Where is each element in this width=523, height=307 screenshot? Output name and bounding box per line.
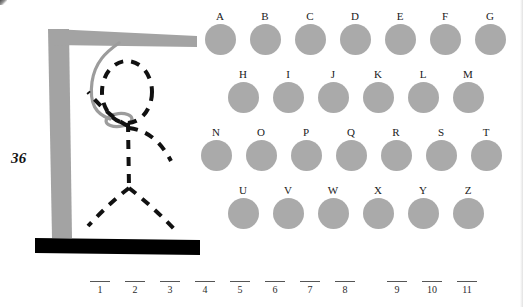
blank-number: 11 bbox=[455, 284, 479, 295]
letter-circle[interactable] bbox=[363, 82, 394, 113]
letter-circle[interactable] bbox=[426, 140, 457, 171]
letter-circle[interactable] bbox=[471, 140, 502, 171]
alphabet-row: U V W X Y Z bbox=[223, 184, 516, 242]
letter-circle[interactable] bbox=[363, 198, 394, 229]
letter-circle[interactable] bbox=[475, 24, 506, 55]
blank-line bbox=[422, 281, 442, 282]
letter-option-t[interactable]: T bbox=[466, 126, 506, 171]
letter-label: W bbox=[313, 184, 353, 197]
letter-option-f[interactable]: F bbox=[425, 10, 465, 55]
blank-line bbox=[265, 281, 285, 282]
letter-label: Z bbox=[448, 184, 488, 197]
letter-label: R bbox=[376, 126, 416, 139]
letter-circle[interactable] bbox=[246, 140, 277, 171]
letter-label: D bbox=[335, 10, 375, 23]
letter-circle[interactable] bbox=[273, 198, 304, 229]
letter-option-v[interactable]: V bbox=[268, 184, 308, 229]
letter-label: S bbox=[421, 126, 461, 139]
letter-circle[interactable] bbox=[408, 198, 439, 229]
letter-label: U bbox=[223, 184, 263, 197]
letter-circle[interactable] bbox=[228, 82, 259, 113]
answer-slot-1[interactable]: 1 bbox=[88, 281, 112, 295]
blank-line bbox=[195, 281, 215, 282]
alphabet-row: A B C D E F G bbox=[200, 10, 516, 68]
letter-circle[interactable] bbox=[273, 82, 304, 113]
blank-number: 2 bbox=[123, 284, 147, 295]
figure-right-leg bbox=[129, 188, 175, 230]
letter-circle[interactable] bbox=[408, 82, 439, 113]
letter-option-c[interactable]: C bbox=[290, 10, 330, 55]
letter-option-q[interactable]: Q bbox=[331, 126, 371, 171]
letter-option-n[interactable]: N bbox=[196, 126, 236, 171]
letter-label: H bbox=[223, 68, 263, 81]
letter-label: G bbox=[470, 10, 510, 23]
answer-slot-2[interactable]: 2 bbox=[123, 281, 147, 295]
letter-label: T bbox=[466, 126, 506, 139]
blank-number: 7 bbox=[298, 284, 322, 295]
blank-line bbox=[125, 281, 145, 282]
letter-option-e[interactable]: E bbox=[380, 10, 420, 55]
letter-option-k[interactable]: K bbox=[358, 68, 398, 113]
letter-circle[interactable] bbox=[340, 24, 371, 55]
gallows-base bbox=[35, 238, 200, 255]
letter-option-x[interactable]: X bbox=[358, 184, 398, 229]
letter-circle[interactable] bbox=[291, 140, 322, 171]
letter-circle[interactable] bbox=[318, 198, 349, 229]
letter-option-i[interactable]: I bbox=[268, 68, 308, 113]
letter-label: F bbox=[425, 10, 465, 23]
answer-slot-9[interactable]: 9 bbox=[385, 281, 409, 295]
letter-option-a[interactable]: A bbox=[200, 10, 240, 55]
letter-circle[interactable] bbox=[381, 140, 412, 171]
letter-option-w[interactable]: W bbox=[313, 184, 353, 229]
alphabet-row: N O P Q R S T bbox=[196, 126, 516, 184]
blank-line bbox=[387, 281, 407, 282]
letter-circle[interactable] bbox=[453, 82, 484, 113]
blank-line bbox=[160, 281, 180, 282]
answer-slot-3[interactable]: 3 bbox=[158, 281, 182, 295]
letter-circle[interactable] bbox=[228, 198, 259, 229]
blank-line bbox=[335, 281, 355, 282]
blank-number: 8 bbox=[333, 284, 357, 295]
letter-label: I bbox=[268, 68, 308, 81]
letter-label: E bbox=[380, 10, 420, 23]
letter-option-z[interactable]: Z bbox=[448, 184, 488, 229]
letter-option-h[interactable]: H bbox=[223, 68, 263, 113]
letter-option-p[interactable]: P bbox=[286, 126, 326, 171]
letter-circle[interactable] bbox=[250, 24, 281, 55]
letter-circle[interactable] bbox=[430, 24, 461, 55]
letter-option-u[interactable]: U bbox=[223, 184, 263, 229]
blank-number: 1 bbox=[88, 284, 112, 295]
gallows-post bbox=[48, 29, 72, 238]
answer-slot-5[interactable]: 5 bbox=[228, 281, 252, 295]
letter-circle[interactable] bbox=[336, 140, 367, 171]
letter-circle[interactable] bbox=[205, 24, 236, 55]
letter-option-d[interactable]: D bbox=[335, 10, 375, 55]
letter-option-g[interactable]: G bbox=[470, 10, 510, 55]
letter-circle[interactable] bbox=[295, 24, 326, 55]
blank-line bbox=[90, 281, 110, 282]
letter-circle[interactable] bbox=[201, 140, 232, 171]
letter-option-s[interactable]: S bbox=[421, 126, 461, 171]
letter-option-y[interactable]: Y bbox=[403, 184, 443, 229]
answer-slot-6[interactable]: 6 bbox=[263, 281, 287, 295]
blank-number: 6 bbox=[263, 284, 287, 295]
letter-circle[interactable] bbox=[318, 82, 349, 113]
answer-slot-10[interactable]: 10 bbox=[420, 281, 444, 295]
letter-option-m[interactable]: M bbox=[448, 68, 488, 113]
letter-label: Q bbox=[331, 126, 371, 139]
letter-label: J bbox=[313, 68, 353, 81]
answer-slot-7[interactable]: 7 bbox=[298, 281, 322, 295]
letter-option-b[interactable]: B bbox=[245, 10, 285, 55]
letter-option-j[interactable]: J bbox=[313, 68, 353, 113]
answer-slot-4[interactable]: 4 bbox=[193, 281, 217, 295]
letter-option-r[interactable]: R bbox=[376, 126, 416, 171]
answer-slot-8[interactable]: 8 bbox=[333, 281, 357, 295]
letter-option-o[interactable]: O bbox=[241, 126, 281, 171]
letter-label: X bbox=[358, 184, 398, 197]
letter-option-l[interactable]: L bbox=[403, 68, 443, 113]
letter-circle[interactable] bbox=[453, 198, 484, 229]
letter-circle[interactable] bbox=[385, 24, 416, 55]
blank-line bbox=[300, 281, 320, 282]
answer-slot-11[interactable]: 11 bbox=[455, 281, 479, 295]
letter-label: M bbox=[448, 68, 488, 81]
